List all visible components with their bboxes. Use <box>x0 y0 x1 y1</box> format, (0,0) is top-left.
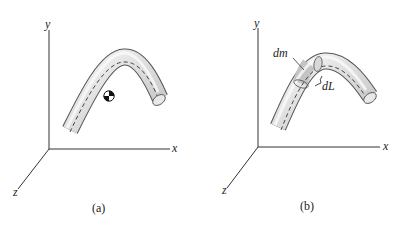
figure: y x z (a) y x z <box>0 0 417 225</box>
panel-a: y x z (a) <box>12 17 178 215</box>
panel-b: y x z dm dL (b) <box>221 16 389 213</box>
y-axis-label-a: y <box>44 17 51 31</box>
z-axis-label-a: z <box>12 185 18 199</box>
y-axis-label-b: y <box>253 16 260 30</box>
z-axis-b <box>227 147 258 188</box>
axes-a <box>18 30 170 189</box>
dm-label: dm <box>273 46 288 60</box>
x-axis-label-a: x <box>171 141 178 155</box>
dL-brace <box>315 76 322 86</box>
x-axis-label-b: x <box>382 139 389 153</box>
caption-b: (b) <box>300 199 314 213</box>
dL-label: dL <box>322 79 335 93</box>
z-axis-a <box>18 149 49 189</box>
curved-tube-a <box>67 53 167 132</box>
center-of-mass-icon <box>104 91 114 101</box>
z-axis-label-b: z <box>221 183 227 197</box>
axes-b <box>227 28 380 188</box>
caption-a: (a) <box>92 201 105 215</box>
